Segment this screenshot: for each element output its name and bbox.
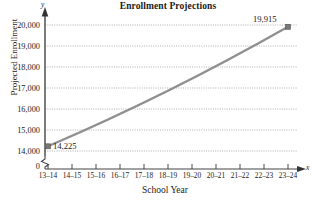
plot-area [0,0,312,200]
x-tick-label: 23–24 [279,171,297,180]
x-tick-label: 19–20 [183,171,201,180]
x-tick-label: 18–19 [159,171,177,180]
x-tick-label: 22–23 [255,171,273,180]
x-tick-label: 16–17 [111,171,129,180]
y-axis-letter: y [41,0,44,9]
x-tick-label: 20–21 [207,171,225,180]
enrollment-projections-chart: Enrollment Projections Projected Enrollm… [0,0,312,200]
data-line [48,27,288,147]
x-tick-label: 17–18 [135,171,153,180]
x-axis-letter: x [306,163,309,172]
x-tick-label: 15–16 [87,171,105,180]
x-tick-label: 14–15 [63,171,81,180]
x-tick-label: 13–14 [39,171,57,180]
data-point-label-start: 14,225 [53,141,77,151]
data-point-label-end: 19,915 [253,14,277,24]
x-tick-label: 21–22 [231,171,249,180]
